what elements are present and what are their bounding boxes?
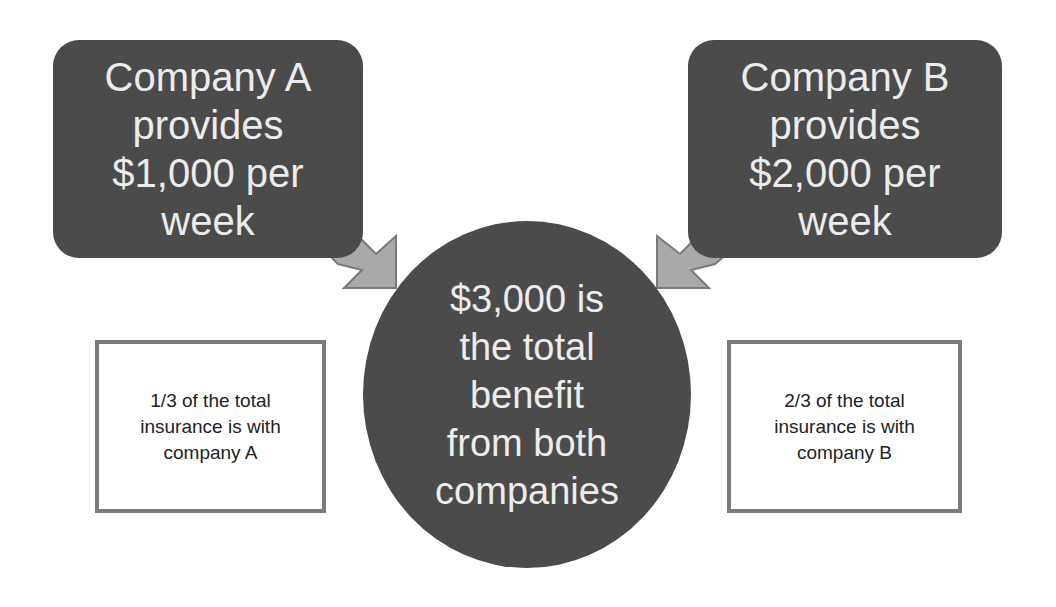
company-b-line-2: provides [769, 101, 920, 149]
company-b-line-3: $2,000 per [749, 149, 940, 197]
company-a-line-2: provides [132, 101, 283, 149]
note-b-line-2: insurance is with [774, 414, 914, 440]
note-b-line-3: company B [797, 440, 892, 466]
note-company-b: 2/3 of the total insurance is with compa… [727, 340, 962, 513]
note-b-line-1: 2/3 of the total [784, 388, 904, 414]
total-line-3: benefit [470, 371, 584, 419]
total-line-5: companies [435, 467, 619, 515]
total-benefit-circle: $3,000 is the total benefit from both co… [363, 221, 691, 568]
note-company-a: 1/3 of the total insurance is with compa… [95, 340, 326, 513]
note-a-line-2: insurance is with [140, 414, 280, 440]
company-b-line-1: Company B [741, 53, 950, 101]
company-b-box: Company B provides $2,000 per week [688, 40, 1002, 258]
company-a-line-3: $1,000 per [112, 149, 303, 197]
company-a-line-1: Company A [105, 53, 312, 101]
note-a-line-3: company A [164, 440, 258, 466]
company-a-box: Company A provides $1,000 per week [53, 40, 363, 258]
total-line-2: the total [459, 323, 594, 371]
company-a-line-4: week [161, 197, 254, 245]
company-b-line-4: week [798, 197, 891, 245]
total-line-1: $3,000 is [450, 275, 604, 323]
total-line-4: from both [447, 419, 608, 467]
note-a-line-1: 1/3 of the total [150, 388, 270, 414]
